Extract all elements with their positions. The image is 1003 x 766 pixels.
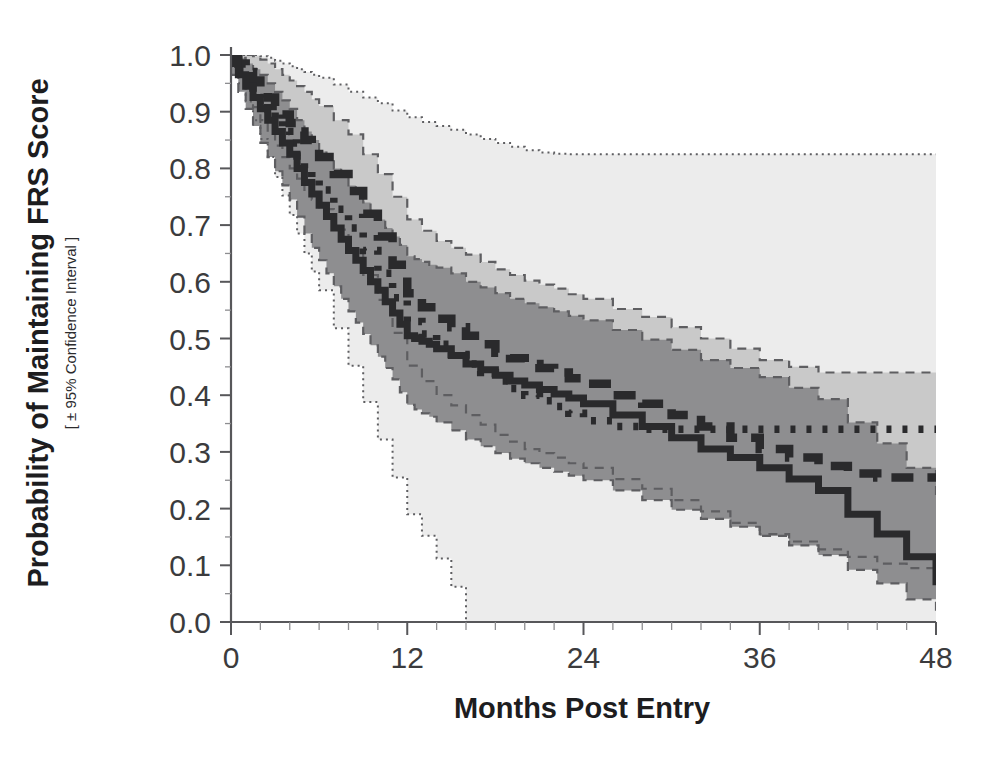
y-tick-label: 0.1 bbox=[169, 549, 211, 582]
y-tick-label: 0.7 bbox=[169, 209, 211, 242]
y-tick-label: 0.9 bbox=[169, 96, 211, 129]
y-tick-label: 0.5 bbox=[169, 323, 211, 356]
y-tick-label: 0.3 bbox=[169, 436, 211, 469]
y-tick-label: 0.4 bbox=[169, 379, 211, 412]
x-tick-label: 12 bbox=[391, 641, 424, 674]
y-axis-title: Probability of Maintaining FRS Score bbox=[22, 78, 54, 587]
x-tick-label: 36 bbox=[743, 641, 776, 674]
x-tick-label: 0 bbox=[223, 641, 240, 674]
confidence-bands bbox=[231, 55, 936, 622]
x-tick-label: 24 bbox=[567, 641, 600, 674]
y-tick-label: 0.2 bbox=[169, 493, 211, 526]
figure-root: 0.00.10.20.30.40.50.60.70.80.91.00122436… bbox=[0, 0, 1003, 766]
y-axis-subtitle: [ ± 95% Confidence Interval ] bbox=[62, 237, 79, 430]
y-tick-label: 0.8 bbox=[169, 152, 211, 185]
y-tick-label: 0.0 bbox=[169, 606, 211, 639]
survival-curve-chart: 0.00.10.20.30.40.50.60.70.80.91.00122436… bbox=[0, 0, 1003, 766]
x-tick-label: 48 bbox=[919, 641, 952, 674]
y-tick-label: 1.0 bbox=[169, 39, 211, 72]
y-tick-label: 0.6 bbox=[169, 266, 211, 299]
x-axis-title: Months Post Entry bbox=[454, 692, 710, 724]
